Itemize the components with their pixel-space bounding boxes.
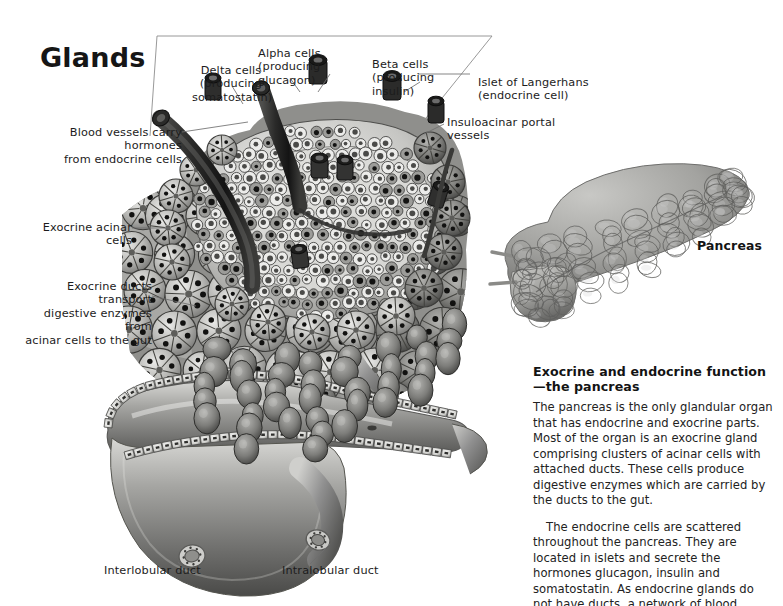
islet-cell — [322, 264, 333, 275]
islet-cell — [285, 126, 296, 137]
islet-cell — [335, 284, 348, 297]
islet-cell — [356, 297, 367, 308]
acinus-lobule — [234, 434, 259, 464]
islet-cell — [349, 127, 360, 138]
islet-cell — [200, 253, 211, 264]
islet-cell — [368, 206, 380, 218]
islet-cell — [327, 252, 339, 264]
duct-epithelial-cell — [438, 407, 448, 417]
islet-cell — [302, 275, 311, 284]
islet-cell — [415, 194, 424, 203]
islet-cell — [219, 218, 229, 228]
islet-cell — [311, 126, 322, 137]
islet-cell — [350, 242, 360, 252]
duct-epithelial-cell — [447, 409, 457, 419]
islet-cell — [290, 229, 303, 242]
islet-cell — [290, 276, 300, 286]
islet-cell — [362, 242, 371, 251]
islet-cell — [256, 171, 268, 183]
duct-epithelial-cell — [268, 431, 277, 439]
islet-cell — [330, 298, 341, 309]
islet-cell — [315, 140, 324, 149]
islet-cell — [343, 296, 356, 309]
islet-cell — [412, 171, 425, 184]
islet-cell — [219, 240, 229, 250]
islet-cell — [376, 196, 386, 206]
islet-cell — [367, 298, 378, 309]
islet-cell — [407, 208, 419, 220]
islet-cell — [400, 218, 410, 228]
islet-cell — [380, 136, 392, 148]
islet-cell — [394, 185, 404, 195]
duct-epithelial-cell — [191, 436, 201, 445]
islet-cell — [347, 217, 357, 227]
islet-cell — [199, 206, 210, 217]
illustration-page: Glands Delta cells (producing somatostat… — [0, 0, 783, 606]
islet-cell — [296, 152, 305, 161]
islet-cell — [407, 254, 418, 265]
islet-cell — [353, 275, 366, 288]
acinar-rosette — [154, 244, 190, 280]
islet-cell — [194, 242, 203, 251]
islet-cell — [270, 240, 279, 249]
islet-cell — [387, 174, 397, 184]
duct-epithelial-cell — [173, 375, 183, 384]
islet-cell — [361, 171, 372, 182]
acinar-rosette — [215, 287, 249, 321]
acinar-rosette — [405, 269, 443, 307]
islet-cell — [334, 241, 346, 253]
islet-cell — [282, 219, 294, 231]
duct-epithelial-cell — [152, 443, 163, 453]
duct-epithelial-cell — [171, 439, 181, 448]
islet-cell — [204, 240, 215, 251]
duct-epithelial-cell — [402, 400, 412, 410]
islet-cell — [259, 286, 270, 297]
islet-cell — [388, 218, 399, 229]
islet-cell — [317, 229, 328, 240]
islet-cell — [367, 254, 377, 264]
islet-cell — [400, 242, 411, 253]
islet-cell — [290, 138, 302, 150]
duct-epithelial-cell — [383, 441, 393, 450]
islet-cell — [375, 287, 384, 296]
duct-epithelial-cell — [257, 371, 266, 380]
callout-exocrine-ducts: Exocrine ducts transport digestive enzym… — [18, 280, 152, 347]
acinus-lobule — [332, 410, 358, 443]
islet-cell — [323, 127, 333, 137]
duct-epithelial-cell — [145, 380, 155, 390]
panel-paragraph-2: The endocrine cells are scattered throug… — [533, 520, 776, 606]
islet-cell — [330, 184, 342, 196]
panel-heading: Exocrine and endocrine function—the panc… — [533, 364, 776, 394]
islet-cell — [393, 206, 403, 216]
acinus-lobule — [373, 387, 398, 417]
islet-cell — [250, 206, 261, 217]
islet-cell — [331, 274, 341, 284]
islet-cell — [382, 161, 394, 173]
acinus-lobule — [303, 435, 328, 462]
islet-cell — [239, 161, 250, 172]
islet-cell — [284, 265, 294, 275]
islet-cell — [381, 251, 391, 261]
islet-cell — [277, 231, 288, 242]
islet-cell — [394, 163, 404, 173]
islet-cell — [407, 183, 418, 194]
acinar-rosette — [337, 311, 375, 349]
duct-epithelial-cell — [364, 438, 374, 447]
callout-insuloacinar-portal-vessels: Insuloacinar portal vessels — [447, 116, 597, 143]
islet-cell — [400, 195, 413, 208]
islet-cell — [342, 182, 354, 194]
islet-cell — [374, 265, 383, 274]
islet-cell — [270, 192, 283, 205]
acinus-lobule — [436, 342, 460, 374]
islet-cell — [194, 193, 206, 205]
islet-cell — [400, 172, 410, 182]
islet-cell — [214, 231, 223, 240]
islet-cell — [226, 274, 238, 286]
islet-cell — [244, 197, 254, 207]
islet-cell — [387, 148, 399, 160]
acinus-lobule — [194, 403, 220, 434]
islet-cell — [341, 207, 351, 217]
acinar-rosette — [294, 314, 330, 350]
duct-epithelial-cell — [354, 436, 364, 445]
islet-cell — [255, 194, 268, 207]
